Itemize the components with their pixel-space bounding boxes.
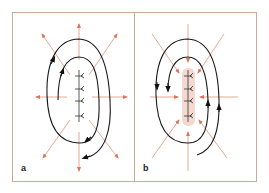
panel-a [36, 24, 127, 171]
shaded-core [182, 68, 195, 126]
outward-field-arrows [36, 24, 127, 171]
dipole-chain [75, 70, 84, 122]
panel-b-label: b [143, 163, 149, 173]
panel-a-label: a [21, 163, 26, 173]
panel-b [150, 24, 238, 171]
figure: a b [0, 0, 269, 193]
diagram-canvas [0, 0, 269, 193]
